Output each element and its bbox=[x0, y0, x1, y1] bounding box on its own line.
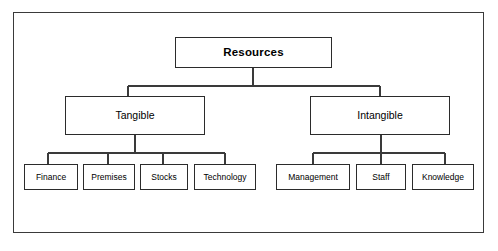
node-management[interactable]: Management bbox=[276, 164, 350, 190]
node-stocks-label: Stocks bbox=[148, 173, 180, 182]
diagram-canvas: Resources TangibleIntangible FinancePrem… bbox=[0, 0, 498, 251]
node-intangible[interactable]: Intangible bbox=[310, 96, 450, 135]
node-technology[interactable]: Technology bbox=[194, 164, 256, 190]
node-knowledge[interactable]: Knowledge bbox=[412, 164, 474, 190]
node-resources-label: Resources bbox=[220, 46, 287, 58]
node-premises[interactable]: Premises bbox=[83, 164, 135, 190]
node-intangible-label: Intangible bbox=[354, 110, 406, 121]
node-tangible-label: Tangible bbox=[112, 110, 157, 121]
node-knowledge-label: Knowledge bbox=[419, 173, 467, 182]
node-staff-label: Staff bbox=[369, 173, 392, 182]
node-tangible[interactable]: Tangible bbox=[65, 96, 205, 135]
node-technology-label: Technology bbox=[200, 173, 249, 182]
node-staff[interactable]: Staff bbox=[356, 164, 406, 190]
node-stocks[interactable]: Stocks bbox=[140, 164, 188, 190]
node-finance[interactable]: Finance bbox=[24, 164, 78, 190]
node-resources[interactable]: Resources bbox=[175, 37, 332, 68]
node-finance-label: Finance bbox=[33, 173, 69, 182]
node-premises-label: Premises bbox=[88, 173, 129, 182]
node-management-label: Management bbox=[285, 173, 341, 182]
